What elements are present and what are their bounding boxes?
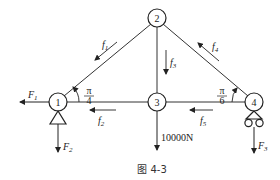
member-1-2 — [64, 24, 151, 96]
node-2: 2 — [148, 9, 166, 27]
F1-sub: 1 — [34, 94, 38, 102]
f3-indicator: f3 — [166, 50, 177, 74]
svg-text:f3: f3 — [170, 57, 177, 70]
f5-indicator: f5 — [190, 110, 213, 128]
F2-sub: 2 — [69, 146, 73, 154]
svg-text:F1: F1 — [27, 89, 38, 102]
node-1-label: 1 — [56, 97, 61, 108]
svg-text:f5: f5 — [200, 115, 207, 128]
svg-text:f1: f1 — [102, 39, 108, 52]
F3-sub: 3 — [263, 145, 268, 153]
angle-right: π 6 — [217, 85, 237, 106]
svg-text:F2: F2 — [62, 141, 73, 154]
force-F3-arrow: F3 — [254, 127, 268, 153]
f5-sub: 5 — [203, 120, 207, 128]
f3-sub: 3 — [172, 62, 177, 70]
svg-text:f4: f4 — [212, 41, 219, 54]
f2-sub: 2 — [101, 120, 105, 128]
load-label: 10000N — [161, 132, 193, 143]
node-4-label: 4 — [252, 97, 257, 108]
truss-diagram: 1 2 3 4 F1 F2 F3 10000N f1 — [0, 0, 280, 180]
pin-support-icon — [50, 111, 66, 124]
svg-text:f2: f2 — [98, 115, 105, 128]
node-3: 3 — [148, 93, 166, 111]
force-F2-arrow: F2 — [58, 124, 73, 154]
angle-left: π 4 — [73, 85, 94, 106]
node-3-label: 3 — [155, 97, 160, 108]
figure-caption: 图 4-3 — [137, 164, 167, 175]
f1-indicator: f1 — [95, 39, 117, 60]
node-4: 4 — [245, 93, 263, 111]
force-F1-arrow: F1 — [20, 89, 49, 102]
node-1: 1 — [49, 93, 67, 111]
f1-sub: 1 — [105, 44, 109, 52]
angle-right-den: 6 — [220, 95, 225, 106]
f2-indicator: f2 — [90, 110, 116, 128]
svg-text:F3: F3 — [257, 140, 268, 153]
angle-left-den: 4 — [87, 95, 92, 106]
member-2-4 — [163, 24, 248, 96]
node-2-label: 2 — [155, 13, 160, 24]
f4-sub: 4 — [215, 46, 219, 54]
roller-support-icon — [245, 111, 263, 127]
load-arrow: 10000N — [157, 111, 193, 150]
f4-indicator: f4 — [198, 41, 219, 61]
